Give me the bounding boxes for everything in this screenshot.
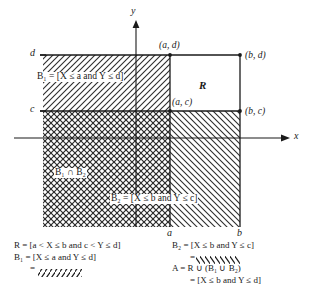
region-b2-only	[170, 111, 240, 227]
legend-left-line-1: R = [a < X ≤ b and c < Y ≤ d]	[14, 240, 120, 252]
region-b1-only	[43, 55, 170, 111]
region-b1-label: B₁ = [X ≤ a and Y ≤ d]	[36, 72, 124, 82]
region-intersection-label: B₁ ∩ B₂	[54, 168, 87, 178]
legend-right-line-1: B₂ = [X ≤ b and Y ≤ c]	[172, 240, 261, 252]
region-b2-label: B₂ = [X ≤ b and Y ≤ c]	[110, 194, 198, 204]
dot-b-d	[238, 53, 242, 57]
legend-right-line-2: =	[172, 252, 261, 264]
tick-label-a: a	[167, 228, 172, 238]
dot-b-c	[238, 109, 242, 113]
x-axis-arrow	[281, 134, 290, 141]
legend-right-line-4: = [X ≤ b and Y ≤ d]	[172, 275, 261, 287]
legend-left: R = [a < X ≤ b and c < Y ≤ d] B₁ = [X ≤ …	[14, 240, 120, 275]
point-a-c-label: (a, c)	[172, 98, 192, 108]
tick-label-d: d	[30, 48, 35, 58]
tick-label-b: b	[237, 228, 242, 238]
legend-right-line-3: A = R ∪ (B₁ ∪ B₂)	[172, 263, 261, 275]
y-axis-label: y	[131, 6, 135, 16]
legend-left-line-2: B₁ = [X ≤ a and Y ≤ d]	[14, 252, 120, 264]
y-axis-arrow	[133, 20, 140, 28]
point-b-d-label: (b, d)	[245, 51, 266, 61]
tick-label-c: c	[30, 104, 34, 114]
figure-canvas: y x d c a b (a, d) (b, d) (a, c) (b, c) …	[0, 0, 329, 291]
region-r-label: R	[199, 80, 206, 91]
dot-a-c	[168, 109, 172, 113]
dot-a-d	[168, 53, 172, 57]
x-axis-label: x	[294, 131, 298, 141]
legend-right: B₂ = [X ≤ b and Y ≤ c] = A = R ∪ (B₁ ∪ B…	[172, 240, 261, 286]
point-a-d-label: (a, d)	[159, 41, 180, 51]
legend-left-line-3: =	[14, 263, 120, 275]
point-b-c-label: (b, c)	[245, 107, 265, 117]
